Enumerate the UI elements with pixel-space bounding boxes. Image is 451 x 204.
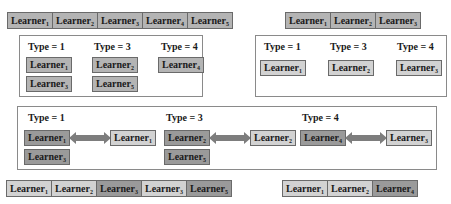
learner-box: Learner1 xyxy=(260,60,306,76)
cell-label: Learner xyxy=(56,15,91,26)
learner-label: Learner xyxy=(332,62,367,73)
strip-cell: Learner1 xyxy=(7,181,52,196)
learner-subscript: 2 xyxy=(367,68,370,74)
learner-label: Learner xyxy=(28,151,63,162)
learner-subscript: 2 xyxy=(203,138,206,144)
cell-label: Learner xyxy=(100,183,135,194)
learner-box: Learner4 xyxy=(158,57,204,73)
cell-subscript: 2 xyxy=(369,21,372,27)
cell-subscript: 2 xyxy=(90,189,93,195)
cell-subscript: 3 xyxy=(414,21,417,27)
learner-box: Learner3 xyxy=(386,130,432,146)
learner-box: Learner2 xyxy=(250,130,296,146)
learner-label: Learner xyxy=(28,132,63,143)
strip-cell: Learner2 xyxy=(53,13,98,28)
learner-box: Learner5 xyxy=(92,76,138,92)
cell-subscript: 4 xyxy=(411,189,414,195)
cell-label: Learner xyxy=(379,15,414,26)
learner-label: Learner xyxy=(162,59,197,70)
learner-box: Learner1 xyxy=(26,57,72,73)
learner-label: Learner xyxy=(304,132,339,143)
cell-label: Learner xyxy=(334,15,369,26)
cell-subscript: 2 xyxy=(91,21,94,27)
learner-label: Learner xyxy=(30,78,65,89)
learner-label: Learner xyxy=(400,62,435,73)
learner-box: Learner4 xyxy=(300,130,346,146)
bottom-left-learner-strip: Learner1 Learner2 Learner3 Learner3 Lear… xyxy=(6,180,232,197)
type-label: Type = 4 xyxy=(161,41,198,52)
cell-label: Learner xyxy=(376,183,411,194)
learner-subscript: 5 xyxy=(203,157,206,163)
type-label: Type = 4 xyxy=(302,112,339,123)
cell-subscript: 1 xyxy=(324,21,327,27)
learner-label: Learner xyxy=(168,151,203,162)
top-right-learner-strip: Learner1 Learner2 Learner3 xyxy=(285,12,421,29)
strip-cell: Learner1 xyxy=(8,13,53,28)
left-type-group-box: Type = 1 Type = 3 Type = 4 Learner1 Lear… xyxy=(19,35,203,97)
learner-label: Learner xyxy=(254,132,289,143)
learner-label: Learner xyxy=(114,132,149,143)
cell-label: Learner xyxy=(331,183,366,194)
cell-subscript: 3 xyxy=(180,189,183,195)
strip-cell: Learner3 xyxy=(98,13,143,28)
learner-label: Learner xyxy=(390,132,425,143)
learner-subscript: 5 xyxy=(131,84,134,90)
double-arrow-icon xyxy=(209,132,251,144)
strip-cell: Learner4 xyxy=(143,13,188,28)
strip-cell: Learner4 xyxy=(373,181,417,196)
cell-label: Learner xyxy=(10,183,45,194)
cell-subscript: 1 xyxy=(321,189,324,195)
learner-label: Learner xyxy=(96,59,131,70)
right-type-group-box: Type = 1 Type = 3 Type = 4 Learner1 Lear… xyxy=(255,35,447,97)
double-arrow-icon xyxy=(345,132,387,144)
learner-box: Learner2 xyxy=(328,60,374,76)
bottom-right-learner-strip: Learner1 Learner2 Learner4 xyxy=(282,180,418,197)
strip-cell: Learner2 xyxy=(52,181,97,196)
learner-subscript: 3 xyxy=(435,68,438,74)
learner-subscript: 2 xyxy=(131,65,134,71)
learner-box: Learner1 xyxy=(24,130,70,146)
cell-subscript: 4 xyxy=(181,21,184,27)
cell-subscript: 3 xyxy=(136,21,139,27)
strip-cell: Learner3 xyxy=(97,181,142,196)
cell-label: Learner xyxy=(146,15,181,26)
type-label: Type = 4 xyxy=(397,41,434,52)
cell-subscript: 5 xyxy=(225,189,228,195)
type-label: Type = 1 xyxy=(28,112,65,123)
learner-subscript: 4 xyxy=(197,65,200,71)
learner-box: Learner2 xyxy=(92,57,138,73)
learner-subscript: 4 xyxy=(339,138,342,144)
cell-label: Learner xyxy=(289,15,324,26)
cell-subscript: 2 xyxy=(366,189,369,195)
type-label: Type = 1 xyxy=(28,41,65,52)
learner-label: Learner xyxy=(264,62,299,73)
cell-label: Learner xyxy=(190,183,225,194)
cell-label: Learner xyxy=(191,15,226,26)
cell-subscript: 1 xyxy=(46,21,49,27)
type-label: Type = 3 xyxy=(94,41,131,52)
strip-cell: Learner5 xyxy=(188,13,232,28)
strip-cell: Learner3 xyxy=(142,181,187,196)
cell-subscript: 1 xyxy=(45,189,48,195)
cell-label: Learner xyxy=(145,183,180,194)
strip-cell: Learner5 xyxy=(187,181,231,196)
strip-cell: Learner2 xyxy=(328,181,373,196)
cell-label: Learner xyxy=(11,15,46,26)
strip-cell: Learner1 xyxy=(283,181,328,196)
learner-label: Learner xyxy=(96,78,131,89)
learner-subscript: 1 xyxy=(299,68,302,74)
cell-subscript: 5 xyxy=(226,21,229,27)
cell-label: Learner xyxy=(101,15,136,26)
strip-cell: Learner2 xyxy=(331,13,376,28)
learner-subscript: 3 xyxy=(425,138,428,144)
top-left-learner-strip: Learner1 Learner2 Learner3 Learner4 Lear… xyxy=(7,12,233,29)
learner-box: Learner3 xyxy=(24,149,70,165)
strip-cell: Learner3 xyxy=(376,13,420,28)
double-arrow-icon xyxy=(69,132,111,144)
learner-box: Learner3 xyxy=(396,60,442,76)
learner-subscript: 3 xyxy=(65,84,68,90)
learner-subscript: 1 xyxy=(149,138,152,144)
middle-pairing-box: Type = 1 Type = 3 Type = 4 Learner1 Lear… xyxy=(17,106,437,170)
learner-box: Learner3 xyxy=(26,76,72,92)
learner-subscript: 2 xyxy=(289,138,292,144)
